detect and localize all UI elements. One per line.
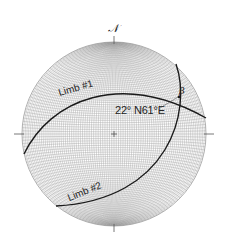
north-label: 𝒩: [108, 23, 119, 34]
fold-axis-label: 22° N61°E: [115, 105, 165, 116]
stereonet: [0, 0, 227, 248]
beta-point: [178, 96, 181, 99]
beta-label: β: [179, 86, 185, 96]
